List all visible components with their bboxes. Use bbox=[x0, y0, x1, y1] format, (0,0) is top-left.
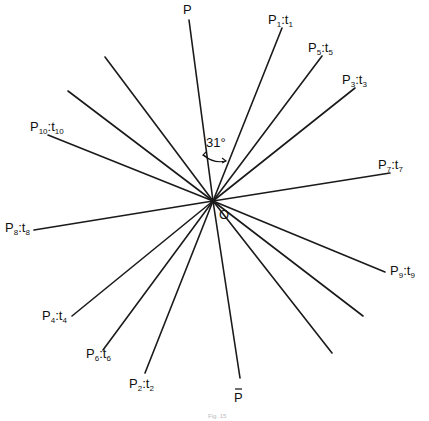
ray-label-p4: P4:t4 bbox=[42, 308, 67, 325]
ray-label-p5: P5:t5 bbox=[308, 40, 333, 57]
ray-u4 bbox=[213, 201, 332, 353]
ray-p1 bbox=[213, 28, 282, 201]
ray-diagram: PP1:t1P5:t5P3:t3P7:t7P10:t10P8:t8P4:t4P6… bbox=[0, 0, 429, 421]
ray-label-p6: P6:t6 bbox=[86, 346, 111, 363]
rays-group bbox=[34, 20, 390, 378]
ray-pbar bbox=[213, 201, 240, 378]
ray-p7 bbox=[213, 173, 390, 201]
ray-p9 bbox=[213, 201, 385, 272]
ray-p2 bbox=[145, 201, 213, 373]
ray-u3 bbox=[213, 201, 363, 316]
angle-arrow-right bbox=[222, 158, 226, 163]
figure-caption: Fig. 15 bbox=[208, 413, 227, 419]
ray-label-p9: P9:t9 bbox=[390, 263, 415, 280]
ray-p3 bbox=[213, 88, 355, 201]
ray-p4 bbox=[72, 201, 213, 316]
ray-p8 bbox=[34, 201, 213, 230]
ray-label-pbar: P bbox=[234, 390, 243, 405]
angle-label: 31° bbox=[206, 135, 226, 150]
origin-label: O bbox=[219, 207, 229, 222]
ray-p6 bbox=[103, 201, 213, 350]
ray-p5 bbox=[213, 56, 322, 201]
ray-u2 bbox=[68, 91, 213, 201]
ray-label-p8: P8:t8 bbox=[5, 220, 30, 237]
ray-label-p: P bbox=[183, 2, 192, 17]
ray-label-p3: P3:t3 bbox=[342, 72, 367, 89]
ray-label-p1: P1:t1 bbox=[268, 12, 293, 29]
ray-label-p10: P10:t10 bbox=[30, 119, 64, 136]
ray-label-p2: P2:t2 bbox=[129, 376, 154, 393]
ray-label-p7: P7:t7 bbox=[378, 157, 403, 174]
